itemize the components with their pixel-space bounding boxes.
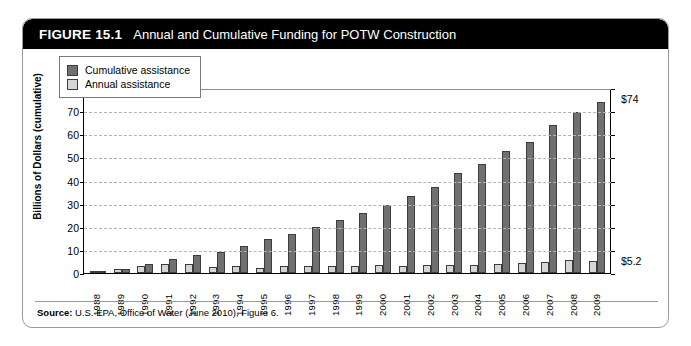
x-axis-tick-2008: 2008	[561, 276, 585, 316]
gridline-50	[84, 158, 611, 159]
y-tickmark-70	[80, 112, 84, 113]
y-axis-tick-10: 10	[67, 245, 79, 257]
legend-label-annual: Annual assistance	[85, 78, 170, 90]
y-tickmark-right-30	[611, 205, 615, 206]
bar-cumulative-2001[interactable]	[407, 196, 415, 273]
bar-cumulative-2000[interactable]	[383, 205, 391, 273]
bar-cumulative-2003[interactable]	[454, 173, 462, 273]
x-axis-tick-1998: 1998	[323, 276, 347, 316]
x-axis-tick-1996: 1996	[276, 276, 300, 316]
figure-header: FIGURE 15.1 Annual and Cumulative Fundin…	[23, 19, 668, 49]
bar-annual-1992[interactable]	[185, 264, 193, 273]
y-tickmark-right-20	[611, 228, 615, 229]
y-tickmark-right-60	[611, 135, 615, 136]
y-tickmark-right-10	[611, 251, 615, 252]
x-axis-tick-2002: 2002	[418, 276, 442, 316]
y-tickmark-60	[80, 135, 84, 136]
bar-annual-2001[interactable]	[399, 266, 407, 273]
y-tickmark-right-70	[611, 112, 615, 113]
bar-cumulative-1989[interactable]	[122, 269, 130, 273]
chart-grid	[83, 89, 611, 274]
bar-annual-1989[interactable]	[114, 269, 122, 273]
bar-cumulative-1991[interactable]	[169, 259, 177, 273]
legend-swatch-annual	[67, 79, 78, 90]
x-axis-tick-2009: 2009	[585, 276, 609, 316]
bar-cumulative-1999[interactable]	[359, 213, 367, 273]
bar-cumulative-2002[interactable]	[431, 187, 439, 273]
y-tickmark-30	[80, 205, 84, 206]
gridline-30	[84, 205, 611, 206]
y-axis-tick-70: 70	[67, 106, 79, 118]
chart-plot-area: Billions of Dollars (cumulative) 0102030…	[23, 49, 669, 294]
bar-cumulative-1993[interactable]	[217, 252, 225, 273]
bar-annual-2004[interactable]	[470, 265, 478, 273]
bar-annual-1990[interactable]	[137, 266, 145, 273]
bar-annual-1998[interactable]	[328, 266, 336, 273]
y-tickmark-right-80	[611, 89, 615, 90]
x-axis-tick-2005: 2005	[490, 276, 514, 316]
gridline-20	[84, 228, 611, 229]
bar-annual-1988[interactable]	[90, 271, 98, 273]
bar-cumulative-1990[interactable]	[145, 264, 153, 273]
y-axis-tick-40: 40	[67, 176, 79, 188]
source-label: Source:	[37, 307, 72, 318]
bar-annual-1993[interactable]	[209, 267, 217, 273]
bar-annual-2007[interactable]	[541, 262, 549, 273]
annotation-cumulative-total: $74	[621, 93, 639, 105]
bar-cumulative-1988[interactable]	[98, 271, 106, 273]
x-axis-tick-2001: 2001	[395, 276, 419, 316]
bar-annual-1994[interactable]	[232, 266, 240, 273]
bar-annual-1991[interactable]	[161, 264, 169, 273]
y-axis-tick-30: 30	[67, 199, 79, 211]
y-axis-tick-0: 0	[73, 268, 79, 280]
source-text: U.S. EPA, Office of Water (June 2010), F…	[75, 307, 279, 318]
bar-annual-1995[interactable]	[256, 268, 264, 273]
x-axis-tick-2007: 2007	[537, 276, 561, 316]
gridline-40	[84, 182, 611, 183]
y-axis-tick-50: 50	[67, 152, 79, 164]
chart-legend: Cumulative assistance Annual assistance	[59, 56, 201, 98]
figure-title: Annual and Cumulative Funding for POTW C…	[133, 27, 456, 42]
bar-cumulative-2006[interactable]	[526, 142, 534, 273]
x-axis-tick-1999: 1999	[347, 276, 371, 316]
legend-item-annual: Annual assistance	[67, 78, 190, 90]
y-axis-tick-labels: 01020304050607080	[49, 89, 79, 274]
y-tickmark-right-0	[611, 274, 615, 275]
x-axis-tick-2004: 2004	[466, 276, 490, 316]
legend-label-cumulative: Cumulative assistance	[85, 64, 190, 76]
bar-annual-1999[interactable]	[351, 266, 359, 273]
y-tickmark-50	[80, 158, 84, 159]
bar-annual-2005[interactable]	[494, 264, 502, 273]
y-tickmark-20	[80, 228, 84, 229]
y-tickmark-10	[80, 251, 84, 252]
bar-cumulative-1992[interactable]	[193, 255, 201, 273]
bar-annual-2008[interactable]	[565, 260, 573, 273]
y-tickmark-0	[80, 274, 84, 275]
source-note: Source: U.S. EPA, Office of Water (June …	[37, 307, 279, 318]
figure-number: FIGURE 15.1	[39, 27, 122, 42]
bar-annual-2006[interactable]	[518, 263, 526, 273]
figure-card: FIGURE 15.1 Annual and Cumulative Fundin…	[22, 18, 669, 328]
y-axis-label: Billions of Dollars (cumulative)	[32, 72, 43, 222]
annotation-annual-latest: $5.2	[621, 255, 641, 267]
x-axis-tick-2003: 2003	[442, 276, 466, 316]
bar-annual-2003[interactable]	[446, 265, 454, 273]
bar-annual-1996[interactable]	[280, 266, 288, 273]
y-axis-tick-20: 20	[67, 222, 79, 234]
legend-item-cumulative: Cumulative assistance	[67, 64, 190, 76]
bar-cumulative-1995[interactable]	[264, 239, 272, 273]
bar-annual-2002[interactable]	[423, 265, 431, 273]
bar-cumulative-2009[interactable]	[597, 102, 605, 273]
y-tickmark-right-50	[611, 158, 615, 159]
gridline-70	[84, 112, 611, 113]
bar-annual-2009[interactable]	[589, 261, 597, 273]
y-tickmark-right-40	[611, 182, 615, 183]
bar-annual-1997[interactable]	[304, 266, 312, 273]
x-axis-tick-2000: 2000	[371, 276, 395, 316]
y-axis-tick-60: 60	[67, 129, 79, 141]
source-divider	[35, 301, 658, 302]
y-tickmark-40	[80, 182, 84, 183]
bar-cumulative-2005[interactable]	[502, 151, 510, 273]
bar-cumulative-1996[interactable]	[288, 234, 296, 273]
bar-annual-2000[interactable]	[375, 265, 383, 273]
